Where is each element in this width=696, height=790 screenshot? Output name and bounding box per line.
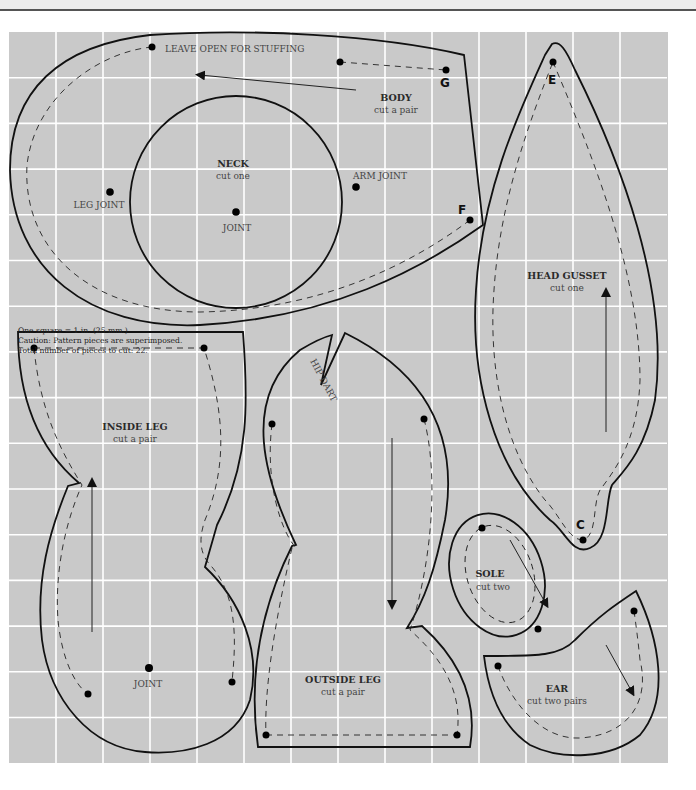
neck-joint-label: JOINT bbox=[222, 223, 251, 233]
body-title: BODY bbox=[380, 92, 412, 103]
inside-leg-joint-label: JOINT bbox=[133, 679, 162, 689]
stuffing-opening-mark bbox=[149, 44, 156, 51]
outside-leg-subtitle: cut a pair bbox=[321, 687, 366, 697]
arm-joint-label: ARM JOINT bbox=[352, 171, 407, 181]
point-f-label: F bbox=[458, 203, 466, 217]
point-e-label: E bbox=[548, 73, 556, 87]
inside-leg-joint-mark bbox=[145, 664, 153, 672]
point-f-mark bbox=[467, 217, 474, 224]
sole-subtitle: cut two bbox=[476, 582, 510, 592]
arm-joint-mark bbox=[352, 183, 360, 191]
head-gusset-title: HEAD GUSSET bbox=[527, 270, 606, 281]
inside-leg-subtitle: cut a pair bbox=[113, 434, 158, 444]
total-pieces-note: Total number of pieces to cut: 22. bbox=[18, 346, 148, 355]
point-c-mark bbox=[580, 537, 587, 544]
ear-title: EAR bbox=[546, 683, 569, 694]
body-subtitle: cut a pair bbox=[374, 105, 419, 115]
neck-title: NECK bbox=[217, 158, 249, 169]
sewing-pattern-diagram: LEAVE OPEN FOR STUFFING G BODY cut a pai… bbox=[0, 0, 696, 790]
sole-title: SOLE bbox=[475, 568, 504, 579]
leg-joint-mark bbox=[106, 188, 114, 196]
leave-open-label: LEAVE OPEN FOR STUFFING bbox=[165, 44, 304, 54]
point-g-label: G bbox=[440, 76, 450, 90]
neck-subtitle: cut one bbox=[216, 171, 250, 181]
ear-subtitle: cut two pairs bbox=[527, 696, 587, 706]
point-e-mark bbox=[550, 59, 557, 66]
scale-note: One square = 1 in. (25 mm.) bbox=[18, 326, 128, 335]
point-g-mark bbox=[443, 67, 450, 74]
neck-joint-mark bbox=[232, 208, 240, 216]
caution-note: Caution: Pattern pieces are superimposed… bbox=[18, 336, 182, 345]
outside-leg-title: OUTSIDE LEG bbox=[305, 674, 381, 685]
head-gusset-subtitle: cut one bbox=[550, 283, 584, 293]
inside-leg-title: INSIDE LEG bbox=[102, 421, 167, 432]
leg-joint-label: LEG JOINT bbox=[73, 200, 124, 210]
point-c-label: C bbox=[576, 518, 585, 532]
